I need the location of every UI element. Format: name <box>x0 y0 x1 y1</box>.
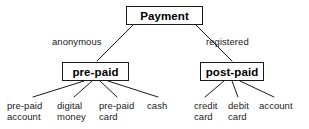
leaf-line-1: digital <box>57 100 86 111</box>
leaf-line-1: debit <box>228 100 249 111</box>
leaf-line-1: credit <box>194 100 218 111</box>
node-post-paid: post-paid <box>200 62 264 81</box>
leaf-line-2: card <box>228 111 249 122</box>
leaf-account: account <box>259 100 293 111</box>
leaf-line-1: pre-paid <box>99 100 134 111</box>
leaf-pre-paid-card: pre-paid card <box>99 100 134 122</box>
leaf-line-2: account <box>7 111 42 122</box>
edge-prepaid-to-cash <box>108 81 158 97</box>
leaf-cash: cash <box>147 100 167 111</box>
node-pre-paid: pre-paid <box>62 62 129 81</box>
leaf-line-2: card <box>194 111 218 122</box>
edge-postpaid-to-credit-card <box>205 81 224 97</box>
leaf-line-1: cash <box>147 100 167 111</box>
edge-label-registered: registered <box>206 36 249 47</box>
leaf-pre-paid-account: pre-paid account <box>7 100 42 122</box>
leaf-line-2: money <box>57 111 86 122</box>
edge-postpaid-to-account <box>240 81 274 97</box>
leaf-line-1: account <box>259 100 293 111</box>
leaf-credit-card: credit card <box>194 100 218 122</box>
leaf-digital-money: digital money <box>57 100 86 122</box>
edge-payment-to-prepaid <box>97 25 133 61</box>
payment-taxonomy-diagram: Payment pre-paid post-paid anonymous reg… <box>0 0 309 129</box>
node-payment: Payment <box>126 6 203 25</box>
edge-postpaid-to-debit-card <box>232 81 238 97</box>
leaf-line-1: pre-paid <box>7 100 42 111</box>
edge-label-anonymous: anonymous <box>52 36 102 47</box>
leaf-line-2: card <box>99 111 134 122</box>
leaf-debit-card: debit card <box>228 100 249 122</box>
